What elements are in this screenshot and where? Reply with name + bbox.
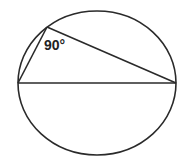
circle-diagram: 90°	[0, 0, 184, 161]
angle-label: 90°	[44, 37, 65, 53]
triangle-side-left	[18, 27, 47, 83]
diagram-canvas: 90°	[0, 0, 184, 161]
